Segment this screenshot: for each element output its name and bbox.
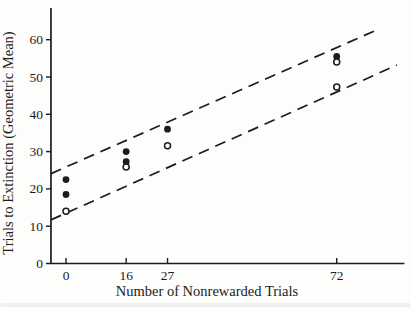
data-point-filled (63, 191, 70, 198)
data-point-open (165, 143, 171, 149)
x-tick-label: 72 (330, 268, 344, 283)
y-axis-label: Trials to Extinction (Geometric Mean) (0, 31, 17, 255)
y-tick-label: 20 (29, 181, 43, 196)
scatter-figure: 01020304050600162772 Trials to Extinctio… (0, 0, 411, 309)
data-point-filled (123, 148, 130, 155)
data-point-filled (164, 126, 171, 133)
data-point-open (123, 164, 129, 170)
axis-spines (51, 8, 404, 264)
data-point-open (334, 59, 340, 65)
y-tick-label: 60 (29, 32, 43, 47)
y-tick-label: 30 (29, 144, 43, 159)
y-tick-label: 50 (29, 70, 43, 85)
y-tick-label: 0 (36, 256, 43, 271)
x-tick-label: 0 (63, 268, 70, 283)
lower-dashed-band-line (51, 65, 397, 220)
data-point-open (334, 84, 340, 90)
upper-dashed-band-line (51, 29, 380, 174)
y-tick-label: 10 (29, 219, 43, 234)
data-point-filled (63, 176, 70, 183)
scan-artifact (0, 303, 411, 307)
x-tick-label: 27 (161, 268, 175, 283)
data-point-open (63, 208, 69, 214)
dashed-band-lines (51, 29, 397, 220)
x-tick-label: 16 (119, 268, 133, 283)
data-points (63, 53, 341, 214)
scatter-plot: 01020304050600162772 Trials to Extinctio… (0, 0, 411, 309)
y-tick-label: 40 (29, 107, 43, 122)
x-axis-label: Number of Nonrewarded Trials (116, 283, 299, 299)
